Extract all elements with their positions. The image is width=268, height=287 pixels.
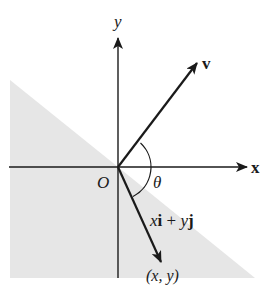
endpoint-label: (x, y) (146, 267, 179, 285)
y-axis-label: y (112, 12, 122, 31)
vector-diagram: y x O v θ xi + yj (x, y) (0, 0, 268, 287)
position-vector-label: xi + yj (149, 211, 194, 230)
shaded-half-plane (10, 80, 255, 278)
position-label-plus: + (162, 211, 180, 230)
vector-v (118, 63, 197, 167)
position-label-y: y (178, 211, 188, 230)
vector-v-label: v (202, 54, 211, 73)
position-label-j: j (187, 211, 194, 230)
x-axis-label: x (251, 158, 260, 177)
origin-label: O (97, 173, 109, 192)
angle-theta-label: θ (153, 173, 161, 192)
